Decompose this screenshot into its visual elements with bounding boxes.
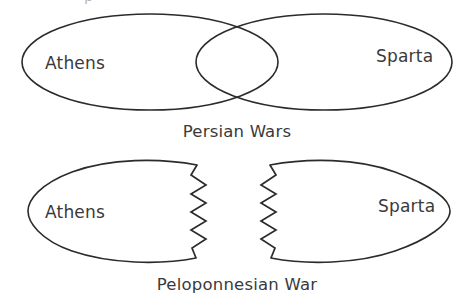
figure-root: p Athens Sparta Persian Wars Athens Spar…	[0, 0, 474, 304]
torn-label-athens: Athens	[45, 202, 105, 222]
torn-edge-athens	[191, 165, 206, 258]
venn-label-athens: Athens	[45, 53, 105, 73]
caption-peloponnesian-war: Peloponnesian War	[157, 275, 317, 294]
diagram-canvas: Athens Sparta Persian Wars Athens Sparta…	[0, 0, 474, 304]
panel-peloponnesian-war: Athens Sparta Peloponnesian War	[28, 160, 450, 294]
torn-label-sparta: Sparta	[378, 196, 435, 216]
caption-persian-wars: Persian Wars	[183, 122, 291, 141]
torn-edge-sparta	[261, 165, 276, 258]
panel-persian-wars: Athens Sparta Persian Wars	[22, 14, 452, 141]
venn-label-sparta: Sparta	[376, 46, 433, 66]
